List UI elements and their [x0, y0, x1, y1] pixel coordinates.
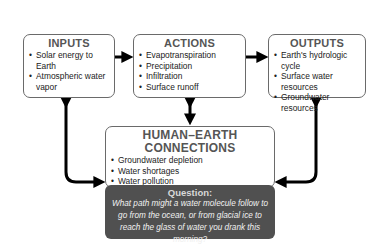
list-item: Groundwater resources: [274, 92, 360, 113]
arrow-outputs-human-earth: [280, 103, 316, 182]
question-box: Question: What path might a water molecu…: [105, 185, 275, 239]
outputs-title: OUTPUTS: [274, 37, 360, 50]
arrow-inputs-human-earth: [66, 103, 100, 182]
list-item: Water shortages: [111, 166, 269, 177]
actions-box: ACTIONS Evapotranspiration Precipitation…: [133, 34, 246, 98]
actions-title: ACTIONS: [139, 37, 240, 50]
human-earth-connections-box: HUMAN–EARTH CONNECTIONS Groundwater depl…: [105, 126, 275, 188]
actions-list: Evapotranspiration Precipitation Infiltr…: [139, 50, 240, 92]
list-item: Atmospheric water vapor: [29, 71, 109, 92]
list-item: Evapotranspiration: [139, 50, 240, 61]
question-text: What path might a water molecule follow …: [109, 198, 271, 246]
inputs-title: INPUTS: [29, 37, 109, 50]
list-item: Infiltration: [139, 71, 240, 82]
outputs-list: Earth's hydrologic cycle Surface water r…: [274, 50, 360, 114]
list-item: Precipitation: [139, 61, 240, 72]
human-earth-title: HUMAN–EARTH CONNECTIONS: [111, 129, 269, 155]
list-item: Groundwater depletion: [111, 155, 269, 166]
list-item: Surface water resources: [274, 71, 360, 92]
list-item: Surface runoff: [139, 82, 240, 93]
inputs-box: INPUTS Solar energy to Earth Atmospheric…: [23, 34, 115, 98]
question-title: Question:: [109, 187, 271, 198]
list-item: Earth's hydrologic cycle: [274, 50, 360, 71]
outputs-box: OUTPUTS Earth's hydrologic cycle Surface…: [268, 34, 366, 98]
inputs-list: Solar energy to Earth Atmospheric water …: [29, 50, 109, 92]
list-item: Solar energy to Earth: [29, 50, 109, 71]
